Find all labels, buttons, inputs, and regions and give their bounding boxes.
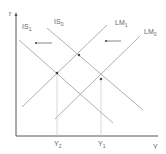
lm0-label: LM0 [144,28,157,37]
lm-arrow-head-icon [105,40,107,42]
is0-label: IS0 [54,18,63,27]
equilibrium-point-mid [78,54,80,56]
x-axis-label: Y [153,143,158,150]
y1-tick-label: Y1 [98,140,105,149]
y2-tick-label: Y2 [54,140,61,149]
lm1-curve [22,25,107,107]
y-axis-arrow-icon [15,12,18,16]
equilibrium-point-1 [100,78,103,81]
is1-label: IS1 [22,23,31,32]
y-axis-label: r [9,10,11,17]
lm1-label: LM1 [115,19,128,28]
is-arrow-head-icon [35,42,37,44]
is1-curve [19,40,113,123]
lm0-curve [55,36,140,119]
equilibrium-point-2 [56,72,59,75]
